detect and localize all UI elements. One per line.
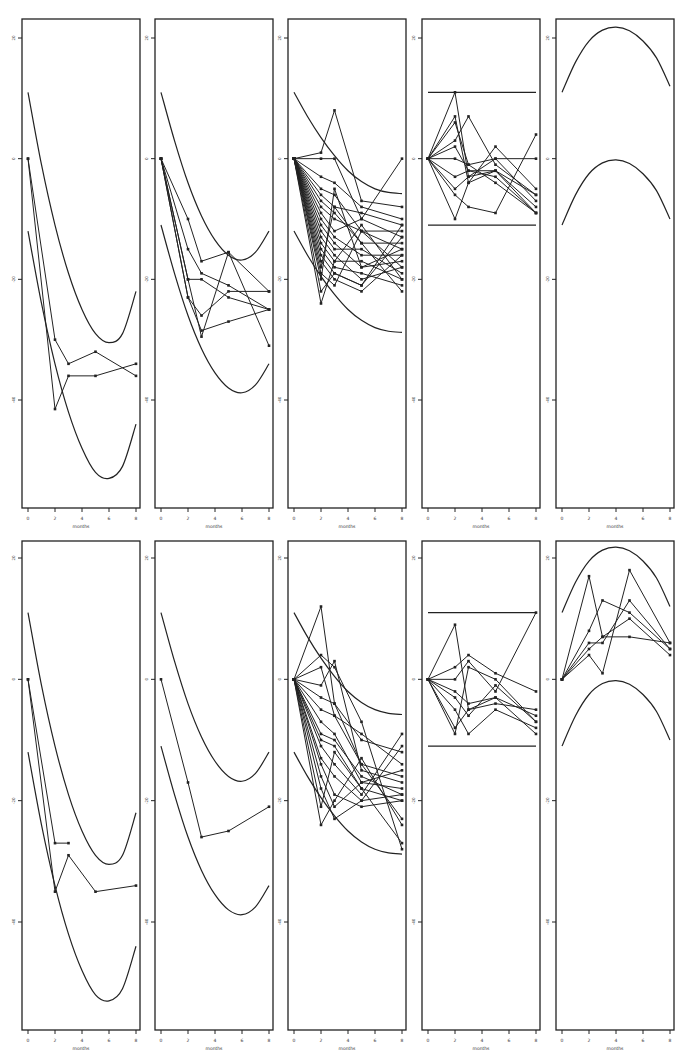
x-tick-label: 8 [535, 1038, 538, 1043]
data-point [588, 642, 591, 645]
data-point [293, 157, 296, 160]
patient-series [161, 159, 269, 292]
data-point [494, 157, 497, 160]
data-point [360, 272, 363, 275]
data-point [360, 242, 363, 245]
data-point [360, 290, 363, 293]
data-point [333, 751, 336, 754]
data-point [467, 654, 470, 657]
data-point [401, 254, 404, 257]
data-point [360, 260, 363, 263]
data-point [401, 733, 404, 736]
data-point [333, 793, 336, 796]
data-point [360, 805, 363, 808]
data-point [200, 335, 203, 338]
patient-series [428, 116, 536, 194]
patient-series [562, 619, 670, 680]
data-point [454, 690, 457, 693]
data-point [401, 272, 404, 275]
data-point [454, 121, 457, 124]
data-point [320, 206, 323, 209]
y-tick-label: 20 [411, 35, 416, 41]
data-point [227, 830, 230, 833]
data-point [401, 842, 404, 845]
x-tick-label: 0 [27, 516, 30, 521]
panel-frame [422, 541, 540, 1030]
data-point [293, 678, 296, 681]
data-point [401, 157, 404, 160]
data-point [135, 884, 138, 887]
data-point [467, 708, 470, 711]
panel-row2-col1: 200-20-4002468months [11, 541, 140, 1051]
data-point [333, 254, 336, 257]
data-point [360, 721, 363, 724]
data-point [320, 302, 323, 305]
panel-row1-col2: 200-20-4002468months [144, 19, 273, 529]
x-tick-label: 8 [669, 516, 672, 521]
y-tick-label: -20 [545, 276, 550, 283]
panel-row2-col4: 200-20-4002468months [411, 541, 540, 1051]
x-tick-label: 0 [160, 516, 163, 521]
data-point [320, 200, 323, 203]
data-point [628, 617, 631, 620]
data-point [360, 278, 363, 281]
panel-row1-col3: 200-20-4002468months [277, 19, 406, 529]
reference-band-lower [562, 681, 670, 747]
data-point [67, 375, 70, 378]
y-tick-label: -20 [144, 276, 149, 283]
data-point [320, 290, 323, 293]
data-point [333, 182, 336, 185]
data-point [561, 678, 564, 681]
x-tick-label: 8 [268, 1038, 271, 1043]
data-point [401, 769, 404, 772]
data-point [333, 763, 336, 766]
data-point [494, 696, 497, 699]
data-point [494, 678, 497, 681]
x-tick-label: 2 [454, 1038, 457, 1043]
data-point [494, 672, 497, 675]
y-tick-label: -40 [545, 918, 550, 925]
data-point [454, 188, 457, 191]
data-point [360, 248, 363, 251]
data-point [320, 157, 323, 160]
panel-row2-col5: 200-20-4002468months [545, 541, 674, 1051]
data-point [200, 329, 203, 332]
y-tick-label: 20 [545, 35, 550, 41]
data-point [320, 824, 323, 827]
y-tick-label: -20 [144, 797, 149, 804]
y-tick-label: -40 [11, 396, 16, 403]
data-point [360, 799, 363, 802]
data-point [535, 200, 538, 203]
reference-band-upper [161, 613, 269, 782]
data-point [467, 163, 470, 166]
data-point [200, 272, 203, 275]
data-point [320, 242, 323, 245]
data-point [333, 702, 336, 705]
panel-row2-col2: 200-20-4002468months [144, 541, 273, 1051]
x-tick-label: 8 [669, 1038, 672, 1043]
data-point [320, 654, 323, 657]
data-point [588, 575, 591, 578]
data-point [320, 787, 323, 790]
y-tick-label: -40 [11, 918, 16, 925]
data-point [601, 672, 604, 675]
panel-row1-col1: 200-20-4002468months [11, 19, 140, 529]
data-point [27, 678, 30, 681]
x-tick-label: 2 [320, 1038, 323, 1043]
panel-row1-col4: 200-20-4002468months [411, 19, 540, 529]
data-point [333, 230, 336, 233]
y-tick-label: 20 [277, 555, 282, 561]
data-point [333, 266, 336, 269]
patient-series [161, 159, 269, 310]
data-point [494, 145, 497, 148]
y-tick-label: 20 [545, 555, 550, 561]
data-point [360, 284, 363, 287]
data-point [669, 654, 672, 657]
y-tick-label: -20 [411, 797, 416, 804]
data-point [454, 708, 457, 711]
data-point [227, 320, 230, 323]
y-tick-label: 0 [545, 678, 550, 681]
x-tick-label: 4 [615, 1038, 618, 1043]
data-point [401, 284, 404, 287]
data-point [454, 696, 457, 699]
